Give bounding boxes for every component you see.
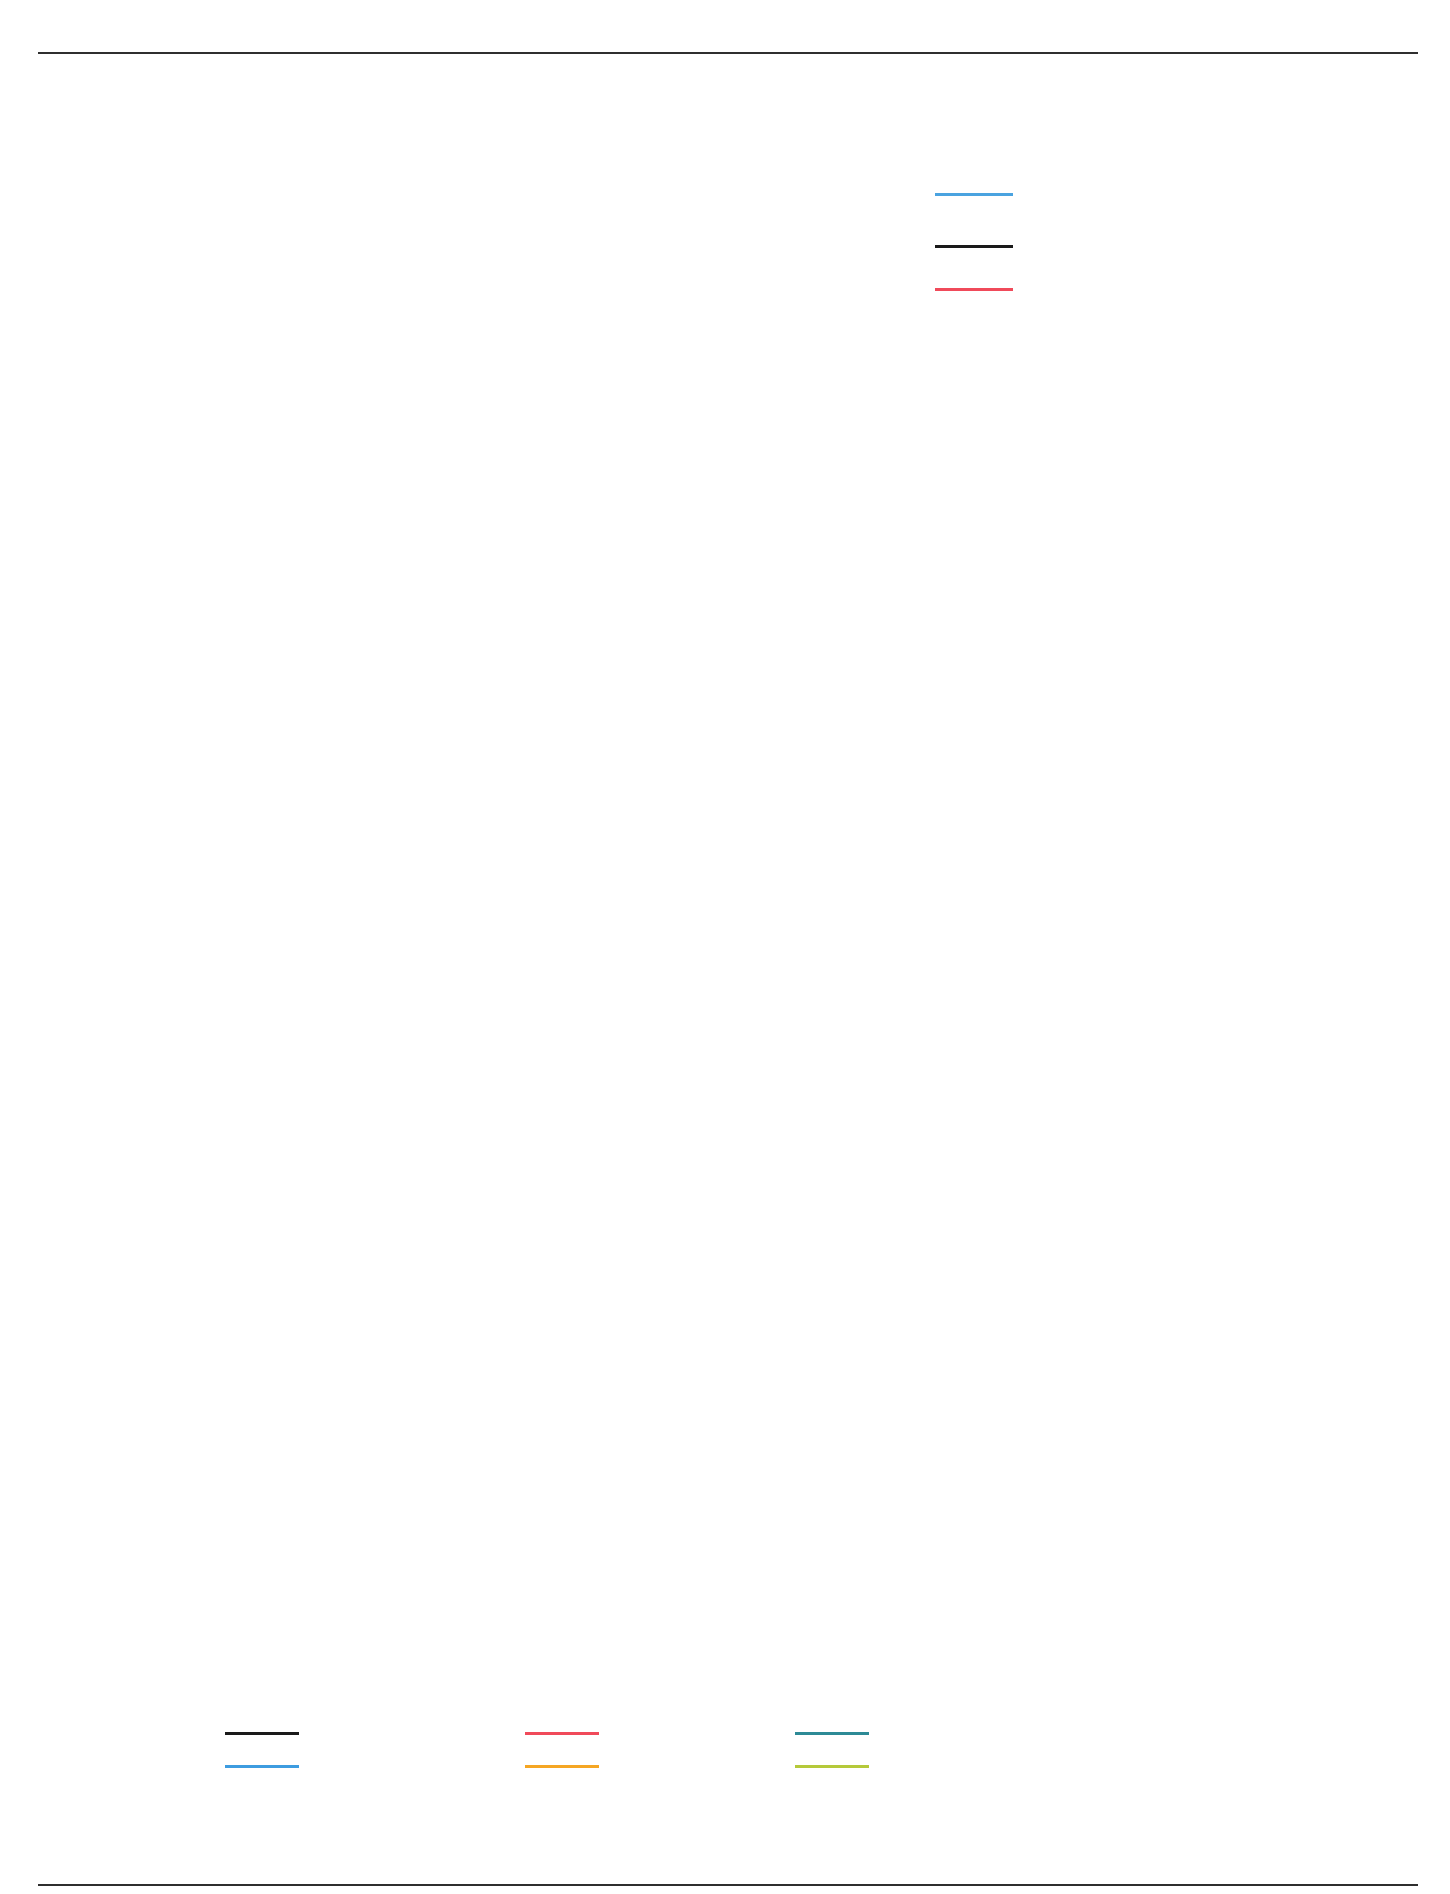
legend-item-bundesautobahnen[interactable] — [225, 1732, 525, 1735]
legend-swatch-bundesbahn — [935, 245, 1013, 248]
legend-swatch-kreisstrassen — [525, 1732, 599, 1735]
legend-item-bundesbahn[interactable] — [935, 245, 1035, 248]
legend-swatch-wasserstrassen — [935, 193, 1013, 196]
chart-bottom-legend — [225, 1732, 889, 1768]
legend-item-wasserstrassen[interactable] — [935, 193, 1035, 196]
legend-swatch-bundesstrassen — [225, 1765, 299, 1768]
chart-bottom — [0, 820, 1450, 1820]
legend-item-gemeindestrassen-ausserorts[interactable] — [795, 1732, 889, 1735]
legend-item-kreisstrassen[interactable] — [525, 1732, 795, 1735]
legend-swatch-landesstrassen — [525, 1765, 599, 1768]
chart-bottom-plot — [0, 820, 1450, 1820]
chart-top — [0, 0, 1450, 790]
legend-item-gemeindestrassen-innerorts[interactable] — [795, 1765, 889, 1768]
legend-swatch-gemeindestrassen-ausserorts — [795, 1732, 869, 1735]
figure-page — [0, 0, 1450, 1894]
footer-rule — [38, 1884, 1418, 1886]
chart-top-plot — [0, 0, 1450, 790]
legend-swatch-bundesautobahnen — [225, 1732, 299, 1735]
legend-item-oeffentliche-strassen[interactable] — [935, 288, 1035, 291]
legend-item-landesstrassen[interactable] — [525, 1765, 795, 1768]
legend-item-bundesstrassen[interactable] — [225, 1765, 525, 1768]
legend-swatch-gemeindestrassen-innerorts — [795, 1765, 869, 1768]
legend-swatch-oeffentliche-strassen — [935, 288, 1013, 291]
